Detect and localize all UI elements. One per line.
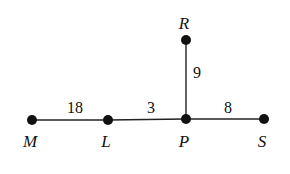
length-m-l: 18	[67, 99, 83, 116]
label-s: S	[258, 132, 267, 151]
label-p: P	[178, 132, 189, 151]
length-p-r: 9	[193, 64, 201, 81]
point-l	[103, 115, 113, 125]
point-s	[259, 114, 269, 124]
point-m	[27, 115, 37, 125]
length-p-s: 8	[224, 99, 232, 116]
segment-lengths: 18 3 8 9	[67, 64, 232, 116]
label-m: M	[22, 132, 38, 151]
geometry-diagram: M L P S R 18 3 8 9	[0, 0, 290, 174]
length-l-p: 3	[147, 99, 155, 116]
segment-l-p	[108, 119, 186, 120]
label-l: L	[100, 132, 110, 151]
point-labels: M L P S R	[22, 14, 267, 151]
point-r	[181, 35, 191, 45]
point-p	[181, 114, 191, 124]
label-r: R	[178, 14, 190, 33]
